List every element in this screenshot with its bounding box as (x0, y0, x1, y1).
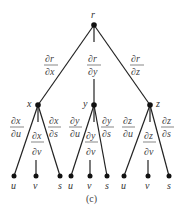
svg-text:∂v: ∂v (86, 146, 96, 157)
label-x: x (26, 98, 32, 109)
node-z (147, 102, 153, 108)
leaf-y-s (105, 174, 110, 179)
label-y: y (82, 98, 88, 109)
fraction-dz-dv: ∂z ∂v (143, 130, 156, 157)
leaf-label-x-u: u (11, 180, 16, 191)
svg-text:∂z: ∂z (144, 130, 153, 141)
fraction-dx-du: ∂x ∂u (10, 115, 24, 139)
svg-text:∂x: ∂x (11, 115, 21, 126)
node-y (91, 102, 97, 108)
fraction-dr-dy: ∂r ∂y (87, 53, 101, 77)
leaf-label-x-v: v (33, 180, 38, 191)
svg-text:∂z: ∂z (131, 66, 140, 77)
fraction-dy-dv: ∂y ∂v (85, 130, 98, 157)
svg-text:∂u: ∂u (70, 128, 80, 139)
svg-text:∂u: ∂u (11, 128, 21, 139)
svg-text:∂v: ∂v (32, 146, 42, 157)
leaf-z-s (167, 174, 172, 179)
svg-text:∂r: ∂r (88, 53, 97, 64)
svg-text:∂y: ∂y (86, 130, 96, 141)
svg-text:∂v: ∂v (144, 146, 154, 157)
svg-text:∂y: ∂y (102, 115, 112, 126)
fraction-dz-du: ∂z ∂u (122, 115, 135, 139)
figure-caption: (c) (86, 193, 97, 205)
label-z: z (155, 98, 160, 109)
leaf-y-u (69, 174, 74, 179)
fraction-dr-dz: ∂r ∂z (130, 53, 144, 77)
tree-diagram: r x y z u v s u v s u v s ∂r ∂x ∂r ∂y ∂r… (0, 0, 183, 211)
leaf-label-y-v: v (87, 180, 92, 191)
fraction-dx-dv: ∂x ∂v (31, 130, 44, 157)
svg-text:∂u: ∂u (123, 128, 133, 139)
svg-text:∂y: ∂y (70, 115, 80, 126)
svg-text:∂r: ∂r (131, 53, 140, 64)
leaf-x-s (58, 174, 63, 179)
leaf-label-y-u: u (68, 180, 73, 191)
svg-text:∂x: ∂x (45, 66, 55, 77)
leaf-label-z-v: v (145, 180, 150, 191)
node-r (91, 22, 97, 28)
fraction-dz-ds: ∂z ∂s (161, 115, 174, 139)
leaf-label-x-s: s (58, 180, 62, 191)
leaf-label-z-u: u (121, 180, 126, 191)
leaf-z-u (122, 174, 127, 179)
leaf-x-u (12, 174, 17, 179)
leaf-z-v (146, 174, 151, 179)
fraction-dr-dx: ∂r ∂x (44, 53, 58, 77)
leaf-x-v (34, 174, 39, 179)
leaf-label-y-s: s (105, 180, 109, 191)
svg-text:∂s: ∂s (49, 128, 58, 139)
svg-text:∂x: ∂x (49, 115, 59, 126)
node-x (35, 102, 41, 108)
svg-text:∂z: ∂z (162, 115, 171, 126)
label-r: r (91, 9, 95, 20)
leaf-label-z-s: s (167, 180, 171, 191)
fraction-dx-ds: ∂x ∂s (48, 115, 61, 139)
svg-text:∂s: ∂s (162, 128, 171, 139)
svg-text:∂r: ∂r (45, 53, 54, 64)
leaf-y-v (88, 174, 93, 179)
svg-text:∂x: ∂x (32, 130, 42, 141)
svg-text:∂s: ∂s (102, 128, 111, 139)
fraction-dy-du: ∂y ∂u (69, 115, 82, 139)
svg-text:∂z: ∂z (123, 115, 132, 126)
fraction-dy-ds: ∂y ∂s (101, 115, 114, 139)
svg-text:∂y: ∂y (88, 66, 98, 77)
